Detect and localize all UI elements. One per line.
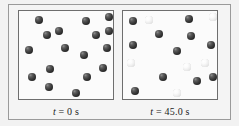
particle-panel-right (122, 10, 218, 100)
sphere-dark (185, 15, 193, 23)
sphere-dark (45, 83, 53, 91)
panel-right-caption-unit: s (186, 106, 190, 117)
sphere-light (127, 59, 135, 67)
panel-right-caption-equals: = (156, 106, 162, 117)
panel-group-right: t = 45.0 s (122, 10, 218, 117)
particle-panel-left (18, 10, 114, 100)
sphere-dark (159, 73, 167, 81)
sphere-dark (129, 41, 137, 49)
panel-group-left: t = 0 s (18, 10, 114, 117)
panel-right-caption-variable: t (150, 106, 153, 117)
sphere-dark (82, 17, 90, 25)
sphere-dark (173, 47, 181, 55)
sphere-dark (207, 41, 215, 49)
panel-left-caption: t = 0 s (18, 106, 114, 117)
sphere-dark (80, 51, 88, 59)
sphere-dark (155, 30, 163, 38)
sphere-dark (193, 77, 201, 85)
reaction-progress-figure: t = 0 s t = 45.0 s (0, 0, 239, 126)
sphere-dark (28, 73, 36, 81)
sphere-dark (187, 32, 195, 40)
sphere-dark (209, 73, 217, 81)
panel-right-caption: t = 45.0 s (122, 106, 218, 117)
sphere-dark (25, 46, 33, 54)
panel-left-caption-variable: t (53, 106, 56, 117)
sphere-dark (92, 31, 100, 39)
panel-left-caption-equals: = (59, 106, 65, 117)
sphere-light (201, 59, 209, 67)
sphere-light (173, 89, 181, 97)
sphere-light (183, 63, 191, 71)
sphere-dark (103, 44, 111, 52)
sphere-light (209, 13, 217, 21)
sphere-dark (105, 27, 113, 35)
sphere-dark (61, 44, 69, 52)
panel-right-caption-value: 45.0 (165, 106, 183, 117)
sphere-light (145, 16, 153, 24)
sphere-dark (129, 17, 137, 25)
sphere-dark (46, 65, 54, 73)
sphere-dark (55, 27, 63, 35)
sphere-dark (35, 16, 43, 24)
sphere-dark (43, 31, 51, 39)
sphere-dark (83, 73, 91, 81)
panel-left-caption-unit: s (75, 106, 79, 117)
panel-left-caption-value: 0 (67, 106, 72, 117)
sphere-dark (131, 87, 139, 95)
sphere-dark (72, 89, 80, 97)
sphere-dark (99, 64, 107, 72)
sphere-dark (105, 13, 113, 21)
